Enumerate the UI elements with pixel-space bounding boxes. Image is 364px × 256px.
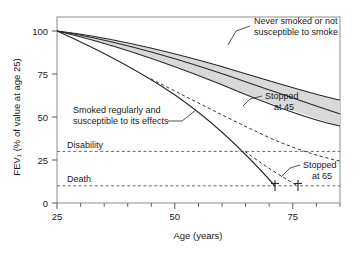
x-tick-label-75: 75: [288, 211, 299, 222]
x-tick-label-50: 50: [170, 211, 181, 222]
y-tick-label-0: 0: [43, 198, 48, 209]
annotation-never-smoked-line2: susceptible to smoke: [254, 27, 338, 37]
x-axis-title: Age (years): [173, 230, 222, 241]
y-tick-label-50: 50: [37, 112, 48, 123]
annotation-stopped-at-65-line2: at 65: [312, 171, 332, 181]
annotation-stopped-at-65-line1: Stopped: [303, 160, 337, 170]
annotation-stopped-at-45-line1: Stopped: [265, 91, 299, 101]
y-tick-label-75: 75: [37, 69, 48, 80]
annotation-smoked-regularly-line1: Smoked regularly and: [73, 105, 161, 115]
annotation-stopped-at-45-line2: at 45: [274, 102, 294, 112]
y-axis-title: FEV₁ (% of value at age 25): [11, 58, 22, 175]
annotation-never-smoked-line1: Never smoked or not: [254, 16, 338, 26]
fev1-decline-chart: 100 75 50 25 0 25 50 75 Age (years) FEV₁: [0, 0, 364, 256]
chart-svg: 100 75 50 25 0 25 50 75 Age (years) FEV₁: [0, 0, 364, 256]
x-tick-label-25: 25: [52, 211, 63, 222]
y-tick-label-25: 25: [37, 155, 48, 166]
y-tick-label-100: 100: [32, 26, 48, 37]
disability-label: Disability: [67, 140, 104, 150]
death-label: Death: [67, 174, 91, 184]
annotation-smoked-regularly-line2: susceptible to its effects: [73, 116, 169, 126]
